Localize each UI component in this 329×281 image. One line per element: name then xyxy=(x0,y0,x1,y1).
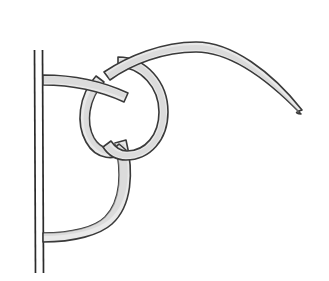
upper-arc-outline xyxy=(104,42,302,114)
pole-left-edge-line xyxy=(35,50,36,273)
knot-diagram-figure xyxy=(0,0,329,281)
vertical-pole xyxy=(35,50,44,273)
rope-segment-upper-arc-right xyxy=(104,42,302,114)
knot-illustration-svg xyxy=(0,0,329,281)
